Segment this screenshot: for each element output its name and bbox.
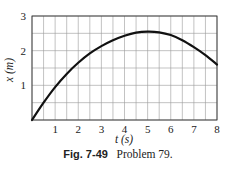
svg-text:2: 2: [76, 123, 82, 135]
svg-text:3: 3: [99, 123, 105, 135]
svg-text:1: 1: [21, 79, 27, 91]
y-axis-label: x (m): [3, 58, 16, 83]
svg-text:5: 5: [145, 123, 151, 135]
x-axis-label: t (s): [115, 133, 133, 146]
figure-label: Fig. 7-49: [63, 148, 108, 160]
grid: [32, 16, 217, 120]
figure-caption: Fig. 7-49 Problem 79.: [0, 148, 236, 160]
svg-text:8: 8: [214, 123, 220, 135]
svg-text:1: 1: [52, 123, 58, 135]
tick-labels: 12345678123: [21, 10, 221, 135]
svg-text:7: 7: [191, 123, 197, 135]
svg-text:3: 3: [21, 10, 27, 22]
svg-text:6: 6: [168, 123, 174, 135]
position-time-chart: 12345678123 t (s) x (m): [0, 0, 236, 150]
caption-text: Problem 79.: [117, 148, 173, 160]
svg-text:2: 2: [21, 45, 27, 57]
